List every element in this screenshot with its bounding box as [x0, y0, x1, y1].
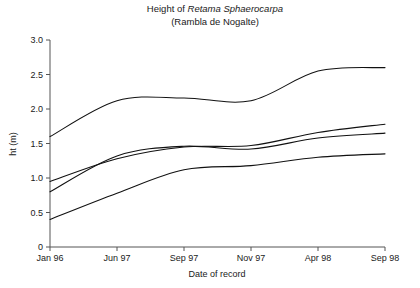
chart-title: Height of Retama Sphaerocarpa [147, 3, 283, 14]
series-line-plant-1 [50, 67, 385, 136]
chart-title-prefix: Height of [147, 3, 188, 14]
x-tick-label: Apr 98 [305, 253, 332, 263]
series-line-plant-3 [50, 133, 385, 192]
x-tick-label: Jan 96 [36, 253, 63, 263]
y-axis-title: ht (m) [8, 132, 18, 156]
chart-figure: Height of Retama Sphaerocarpa (Rambla de… [0, 0, 420, 288]
x-tick-label: Sep 98 [371, 253, 400, 263]
y-tick-label: 1.5 [30, 139, 43, 149]
y-axis-ticks: 00.51.01.52.02.53.0 [30, 35, 50, 252]
series-line-plant-2 [50, 124, 385, 181]
series-lines [50, 67, 385, 219]
x-axis-title: Date of record [188, 269, 245, 279]
x-axis-ticks: Jan 96Jun 97Sep 97Nov 97Apr 98Sep 98 [36, 247, 399, 263]
y-tick-label: 0.5 [30, 208, 43, 218]
y-tick-label: 3.0 [30, 35, 43, 45]
x-tick-label: Sep 97 [170, 253, 199, 263]
chart-title-species: Retama Sphaerocarpa [188, 3, 284, 14]
y-tick-label: 0 [38, 242, 43, 252]
chart-subtitle: (Rambla de Nogalte) [171, 16, 259, 27]
x-tick-label: Nov 97 [237, 253, 266, 263]
y-tick-label: 1.0 [30, 173, 43, 183]
y-tick-label: 2.5 [30, 70, 43, 80]
y-tick-label: 2.0 [30, 104, 43, 114]
x-tick-label: Jun 97 [103, 253, 130, 263]
